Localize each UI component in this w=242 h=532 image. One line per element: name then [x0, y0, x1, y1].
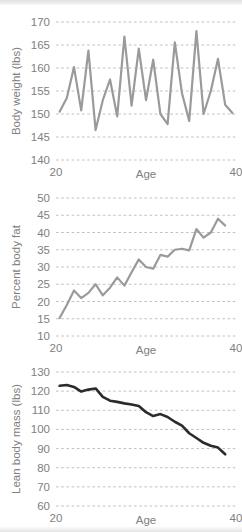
- y-tick-label: 110: [32, 404, 50, 416]
- series-line-body-weight: [60, 31, 233, 130]
- y-gridlines: 101520253035404550: [37, 192, 236, 342]
- page-top-edge-strip: [0, 0, 242, 5]
- y-tick-label: 170: [31, 16, 50, 28]
- y-axis-title: Body weight (lbs): [10, 47, 22, 135]
- y-axis-title: Lean body mass (lbs): [10, 384, 22, 494]
- y-tick-label: 60: [37, 500, 50, 512]
- x-axis-title: Age: [136, 514, 156, 526]
- y-tick-label: 25: [37, 278, 50, 290]
- y-tick-label: 130: [31, 366, 50, 378]
- y-tick-label: 120: [31, 385, 50, 397]
- y-tick-label: 155: [31, 85, 50, 97]
- x-tick-label: 20: [50, 166, 63, 178]
- chart-svg-body-weight: 1401451501551601651702040AgeBody weight …: [0, 8, 242, 184]
- y-gridlines: 60708090100110120130: [31, 366, 236, 512]
- figure-container: 1401451501551601651702040AgeBody weight …: [0, 0, 242, 532]
- x-tick-label: 40: [230, 342, 242, 354]
- y-tick-label: 35: [37, 244, 50, 256]
- y-tick-label: 30: [37, 261, 50, 273]
- y-tick-label: 145: [31, 131, 50, 143]
- series-line-percent-body-fat: [60, 219, 226, 318]
- y-tick-label: 165: [31, 39, 50, 51]
- x-axis-title: Age: [136, 168, 156, 180]
- x-axis-title: Age: [136, 344, 156, 356]
- y-tick-label: 40: [37, 227, 50, 239]
- y-tick-label: 45: [37, 209, 50, 221]
- chart-panel-percent-body-fat: 1015202530354045502040AgePercent body fa…: [0, 184, 242, 360]
- series-line-lean-body-mass: [60, 385, 226, 454]
- y-tick-label: 160: [31, 62, 50, 74]
- y-tick-label: 90: [37, 443, 50, 455]
- y-tick-label: 50: [37, 192, 50, 204]
- y-tick-label: 20: [37, 296, 50, 308]
- y-tick-label: 15: [37, 313, 50, 325]
- chart-panel-lean-body-mass: 607080901001101201302040AgeLean body mas…: [0, 360, 242, 528]
- y-tick-label: 70: [37, 481, 50, 493]
- y-tick-label: 80: [37, 462, 50, 474]
- y-tick-label: 10: [37, 330, 50, 342]
- x-tick-label: 40: [230, 512, 242, 524]
- chart-panel-body-weight: 1401451501551601651702040AgeBody weight …: [0, 8, 242, 184]
- y-tick-label: 140: [31, 154, 50, 166]
- y-tick-label: 150: [31, 108, 50, 120]
- y-axis-title: Percent body fat: [10, 224, 22, 309]
- x-tick-label: 20: [50, 512, 63, 524]
- x-tick-label: 20: [50, 342, 63, 354]
- chart-svg-percent-body-fat: 1015202530354045502040AgePercent body fa…: [0, 184, 242, 360]
- x-tick-label: 40: [230, 166, 242, 178]
- y-tick-label: 100: [31, 423, 50, 435]
- chart-svg-lean-body-mass: 607080901001101201302040AgeLean body mas…: [0, 360, 242, 528]
